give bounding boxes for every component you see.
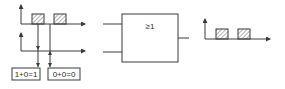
arrow-down-icon: [48, 63, 52, 67]
equation-2-text: 0+0=0: [53, 70, 76, 79]
equation-box-1: 1+0=1: [12, 68, 40, 80]
input-2-timing-chart: [21, 33, 85, 51]
arrow-down-icon: [36, 46, 40, 50]
arrow-up-icon: [48, 51, 52, 55]
gate-symbol: ≥1: [146, 22, 155, 31]
input-1-pulse-2: [54, 14, 66, 24]
input-1-timing-chart: [21, 5, 85, 24]
or-gate-diagram: 1+0=1 0+0=0 ≥1: [0, 0, 285, 89]
equation-1-text: 1+0=1: [15, 70, 38, 79]
sample-lines: [36, 24, 52, 67]
output-pulse-2: [238, 29, 250, 39]
equation-box-2: 0+0=0: [48, 68, 80, 80]
output-pulse-1: [216, 29, 228, 39]
input-1-pulse-1: [32, 14, 44, 24]
output-timing-chart: [205, 19, 270, 39]
arrow-down-icon: [36, 63, 40, 67]
or-gate: ≥1: [103, 14, 189, 62]
